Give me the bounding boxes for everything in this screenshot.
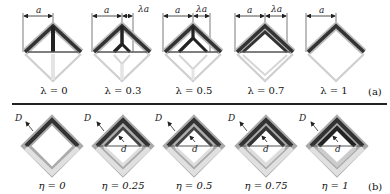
svg-text:a: a [247, 5, 252, 15]
panel-divider [12, 103, 387, 105]
svg-text:d: d [121, 144, 127, 154]
svg-text:D: D [154, 113, 162, 123]
cell-eta-0: D [14, 113, 78, 173]
cell-lambda-0.7: a λa [235, 4, 293, 81]
svg-text:a: a [175, 5, 180, 15]
label-eta-0.25: η = 0.25 [98, 180, 148, 191]
cell-lambda-0: a [23, 5, 81, 81]
label-lambda-0.5: λ = 0.5 [171, 85, 217, 96]
label-eta-1: η = 1 [315, 180, 355, 191]
label-eta-0: η = 0 [32, 180, 72, 191]
label-eta-0.5: η = 0.5 [170, 180, 218, 191]
cell-eta-0.5: D d [154, 113, 220, 173]
label-lambda-0.7: λ = 0.7 [243, 85, 289, 96]
label-lambda-0: λ = 0 [34, 85, 74, 96]
panel-a: a a λa [23, 4, 364, 81]
cell-lambda-1: a [306, 5, 364, 81]
label-lambda-0.3: λ = 0.3 [100, 85, 146, 96]
lattice-diagram: a a λa [0, 0, 390, 194]
svg-text:λa: λa [195, 4, 207, 14]
svg-text:D: D [83, 113, 91, 123]
lattice-figure: a a λa [0, 0, 390, 194]
svg-text:a: a [36, 5, 41, 15]
svg-text:λa: λa [270, 4, 282, 14]
cell-lambda-0.5: a λa [163, 4, 221, 81]
svg-text:d: d [263, 144, 269, 154]
label-lambda-1: λ = 1 [314, 85, 354, 96]
cell-eta-1: D d [298, 113, 363, 173]
panel-b-tag: (b) [368, 181, 382, 192]
label-eta-0.75: η = 0.75 [240, 180, 292, 191]
svg-text:D: D [298, 113, 306, 123]
svg-text:λa: λa [137, 4, 149, 14]
panel-a-tag: (a) [368, 86, 382, 97]
panel-b: D D d [14, 113, 363, 173]
cell-eta-0.75: D d [227, 113, 292, 173]
cell-eta-0.25: D d [83, 113, 149, 173]
svg-text:a: a [319, 5, 324, 15]
svg-text:a: a [104, 5, 109, 15]
svg-text:d: d [335, 144, 341, 154]
svg-text:D: D [227, 113, 235, 123]
svg-text:D: D [14, 113, 22, 123]
cell-lambda-0.3: a λa [92, 4, 150, 81]
svg-text:d: d [192, 144, 198, 154]
